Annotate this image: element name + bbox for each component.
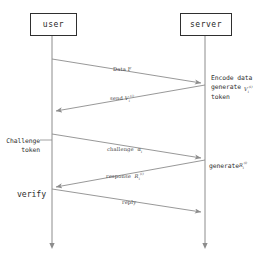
message-text-challenge: challenge <box>107 146 134 152</box>
message-label-challenge: challenge αi <box>107 146 142 154</box>
message-text-data-f: Data F <box>113 66 132 72</box>
actor-box-server[interactable]: server <box>180 13 232 36</box>
message-math-response-r: Ri(i) <box>133 173 144 179</box>
note-text-verify: verify <box>17 189 46 199</box>
note-encode-data-generate-token: Encode data generate token <box>211 64 269 102</box>
lifeline-server <box>202 34 207 249</box>
note-text-generate: generate <box>209 161 239 169</box>
message-text-reply: reply <box>122 199 136 205</box>
message-math-alpha: αi <box>136 146 143 152</box>
message-label-data-f: Data F <box>113 66 132 72</box>
lifeline-user <box>49 34 54 249</box>
message-math-send-v: Vi(i) <box>125 95 134 101</box>
note-math-generate-r: Ri(i) <box>239 162 247 168</box>
actor-box-user[interactable]: user <box>30 13 77 36</box>
message-text-response: response <box>106 173 131 179</box>
diagram-vector-layer <box>0 0 273 259</box>
message-label-response: response Ri(i) <box>106 172 144 181</box>
message-label-reply: reply <box>122 199 136 205</box>
sequence-diagram-canvas: user server Data F send Vi(i) challenge … <box>0 0 273 259</box>
note-text-challenge-token: Challenge token <box>6 137 40 155</box>
message-text-send: send <box>110 95 123 101</box>
note-challenge-token: Challenge token <box>0 127 40 156</box>
actor-label-server: server <box>190 20 222 29</box>
note-generate-r: generateRi(i) <box>209 150 269 174</box>
note-math-token-v: Vi(i) <box>244 85 252 94</box>
actor-label-user: user <box>43 20 64 29</box>
message-label-send-token: send Vi(i) <box>110 94 134 103</box>
note-verify: verify <box>0 180 46 199</box>
